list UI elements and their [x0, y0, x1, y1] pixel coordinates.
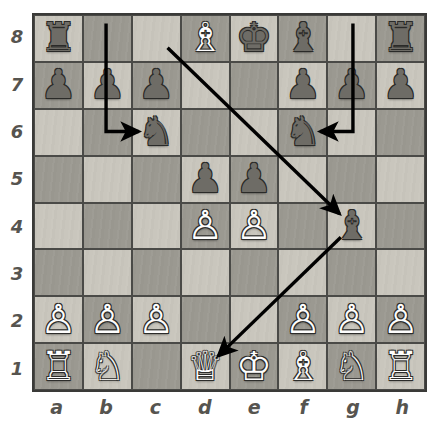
black-rook-a8[interactable]: ♜ — [35, 16, 82, 61]
square-d2[interactable] — [181, 296, 230, 343]
square-c8[interactable] — [132, 15, 181, 62]
square-b5[interactable] — [83, 156, 132, 203]
square-c3[interactable] — [132, 249, 181, 296]
square-d1[interactable]: ♕ — [181, 343, 230, 390]
square-g2[interactable]: ♙ — [327, 296, 376, 343]
white-pawn-d4[interactable]: ♙ — [182, 204, 229, 249]
white-pawn-g2[interactable]: ♙ — [328, 297, 375, 342]
piece-glyph: ♞ — [285, 111, 321, 151]
black-pawn-e5[interactable]: ♟ — [231, 157, 278, 202]
square-a8[interactable]: ♜ — [34, 15, 83, 62]
square-b6[interactable] — [83, 109, 132, 156]
white-pawn-f2[interactable]: ♙ — [279, 297, 326, 342]
square-b8[interactable] — [83, 15, 132, 62]
square-h5[interactable] — [376, 156, 425, 203]
square-f1[interactable]: ♗ — [278, 343, 327, 390]
square-d6[interactable] — [181, 109, 230, 156]
piece-glyph: ♙ — [138, 299, 174, 339]
square-c4[interactable] — [132, 203, 181, 250]
square-c7[interactable]: ♟ — [132, 62, 181, 109]
square-d4[interactable]: ♙ — [181, 203, 230, 250]
square-h1[interactable]: ♖ — [376, 343, 425, 390]
square-d3[interactable] — [181, 249, 230, 296]
black-rook-h8[interactable]: ♜ — [377, 16, 424, 61]
white-king-e1[interactable]: ♔ — [231, 344, 278, 389]
square-f5[interactable] — [278, 156, 327, 203]
square-c5[interactable] — [132, 156, 181, 203]
square-e4[interactable]: ♙ — [230, 203, 279, 250]
square-g5[interactable] — [327, 156, 376, 203]
square-a4[interactable] — [34, 203, 83, 250]
black-pawn-g7[interactable]: ♟ — [328, 63, 375, 108]
square-g4[interactable]: ♝ — [327, 203, 376, 250]
square-f4[interactable] — [278, 203, 327, 250]
white-pawn-h2[interactable]: ♙ — [377, 297, 424, 342]
black-bishop-f8[interactable]: ♝ — [279, 16, 326, 61]
square-a6[interactable] — [34, 109, 83, 156]
square-g3[interactable] — [327, 249, 376, 296]
black-knight-f6[interactable]: ♞ — [279, 110, 326, 155]
square-d7[interactable] — [181, 62, 230, 109]
black-pawn-c7[interactable]: ♟ — [133, 63, 180, 108]
square-g7[interactable]: ♟ — [327, 62, 376, 109]
white-pawn-a2[interactable]: ♙ — [35, 297, 82, 342]
square-f6[interactable]: ♞ — [278, 109, 327, 156]
square-f3[interactable] — [278, 249, 327, 296]
square-d5[interactable]: ♟ — [181, 156, 230, 203]
square-h7[interactable]: ♟ — [376, 62, 425, 109]
white-pawn-c2[interactable]: ♙ — [133, 297, 180, 342]
square-e1[interactable]: ♔ — [230, 343, 279, 390]
square-e6[interactable] — [230, 109, 279, 156]
square-e3[interactable] — [230, 249, 279, 296]
chess-board[interactable]: ♜♗♚♝♜♟♟♟♟♟♟♞♞♟♟♙♙♝♙♙♙♙♙♙♖♘♕♔♗♘♖ — [32, 13, 427, 392]
square-c1[interactable] — [132, 343, 181, 390]
square-f2[interactable]: ♙ — [278, 296, 327, 343]
white-pawn-b2[interactable]: ♙ — [84, 297, 131, 342]
black-knight-c6[interactable]: ♞ — [133, 110, 180, 155]
white-rook-h1[interactable]: ♖ — [377, 344, 424, 389]
white-knight-g1[interactable]: ♘ — [328, 344, 375, 389]
square-e5[interactable]: ♟ — [230, 156, 279, 203]
square-a3[interactable] — [34, 249, 83, 296]
square-b2[interactable]: ♙ — [83, 296, 132, 343]
square-g8[interactable] — [327, 15, 376, 62]
white-queen-d1[interactable]: ♕ — [182, 344, 229, 389]
square-f7[interactable]: ♟ — [278, 62, 327, 109]
black-pawn-h7[interactable]: ♟ — [377, 63, 424, 108]
square-e2[interactable] — [230, 296, 279, 343]
square-f8[interactable]: ♝ — [278, 15, 327, 62]
square-h6[interactable] — [376, 109, 425, 156]
white-rook-a1[interactable]: ♖ — [35, 344, 82, 389]
black-bishop-g4[interactable]: ♝ — [328, 204, 375, 249]
square-g6[interactable] — [327, 109, 376, 156]
square-h2[interactable]: ♙ — [376, 296, 425, 343]
square-e7[interactable] — [230, 62, 279, 109]
black-king-e8[interactable]: ♚ — [231, 16, 278, 61]
white-pawn-e4[interactable]: ♙ — [231, 204, 278, 249]
square-b4[interactable] — [83, 203, 132, 250]
square-a7[interactable]: ♟ — [34, 62, 83, 109]
square-d8[interactable]: ♗ — [181, 15, 230, 62]
square-a5[interactable] — [34, 156, 83, 203]
black-pawn-a7[interactable]: ♟ — [35, 63, 82, 108]
square-b3[interactable] — [83, 249, 132, 296]
white-knight-b1[interactable]: ♘ — [84, 344, 131, 389]
square-c6[interactable]: ♞ — [132, 109, 181, 156]
square-c2[interactable]: ♙ — [132, 296, 181, 343]
black-pawn-f7[interactable]: ♟ — [279, 63, 326, 108]
black-pawn-b7[interactable]: ♟ — [84, 63, 131, 108]
square-g1[interactable]: ♘ — [327, 343, 376, 390]
square-a2[interactable]: ♙ — [34, 296, 83, 343]
square-e8[interactable]: ♚ — [230, 15, 279, 62]
square-b7[interactable]: ♟ — [83, 62, 132, 109]
black-pawn-d5[interactable]: ♟ — [182, 157, 229, 202]
square-h8[interactable]: ♜ — [376, 15, 425, 62]
square-a1[interactable]: ♖ — [34, 343, 83, 390]
white-bishop-f1[interactable]: ♗ — [279, 344, 326, 389]
board-squares[interactable]: ♜♗♚♝♜♟♟♟♟♟♟♞♞♟♟♙♙♝♙♙♙♙♙♙♖♘♕♔♗♘♖ — [32, 13, 427, 392]
square-h4[interactable] — [376, 203, 425, 250]
square-h3[interactable] — [376, 249, 425, 296]
white-bishop-d8[interactable]: ♗ — [182, 16, 229, 61]
square-b1[interactable]: ♘ — [83, 343, 132, 390]
file-label-c: c — [131, 396, 180, 426]
